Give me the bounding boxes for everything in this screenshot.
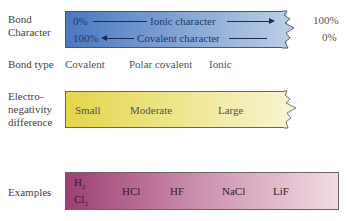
ionic-arrow-line-right	[227, 21, 271, 22]
covalent-start-percent: 100%	[73, 32, 99, 44]
ionic-character-text: Ionic character	[150, 15, 216, 27]
example-lif: LiF	[273, 185, 289, 197]
electronegativity-label-line3: difference	[8, 116, 52, 129]
ionic-start-percent: 0%	[73, 15, 88, 27]
example-cl2-symbol: Cl	[74, 193, 84, 205]
ionic-end-percent: 100%	[313, 14, 339, 26]
covalent-arrow-line-right	[229, 38, 267, 39]
example-h2: H2	[74, 176, 85, 193]
ionic-arrowhead-icon	[269, 18, 275, 24]
bond-type-ionic: Ionic	[209, 58, 232, 70]
electronegativity-moderate: Moderate	[130, 104, 172, 116]
electronegativity-small: Small	[75, 104, 101, 116]
examples-label: Examples	[8, 186, 51, 198]
covalent-end-percent: 0%	[322, 31, 337, 43]
example-h2-symbol: H	[74, 176, 82, 188]
bond-character-label-line1: Bond	[8, 13, 51, 26]
bond-character-label-line2: Character	[8, 26, 51, 39]
example-cl2: Cl2	[74, 193, 88, 210]
electronegativity-label: Electro- negativity difference	[8, 90, 52, 129]
example-cl2-subscript: 2	[84, 200, 88, 208]
electronegativity-bar: Small Moderate Large	[65, 91, 287, 128]
electronegativity-label-line1: Electro-	[8, 90, 52, 103]
examples-bar: H2 Cl2 HCl HF NaCl LiF	[65, 172, 339, 210]
example-h2-subscript: 2	[82, 183, 86, 191]
bond-type-label: Bond type	[8, 58, 54, 70]
electronegativity-jagged-edge-icon	[284, 91, 304, 128]
example-hcl: HCl	[122, 185, 140, 197]
bond-character-jagged-edge-icon	[282, 11, 302, 48]
ionic-arrow-line-left	[93, 21, 147, 22]
bond-type-polar-covalent: Polar covalent	[129, 58, 192, 70]
covalent-arrow-line-left	[106, 38, 134, 39]
example-nacl: NaCl	[222, 185, 245, 197]
covalent-character-text: Covalent character	[137, 32, 220, 44]
electronegativity-large: Large	[218, 104, 243, 116]
bond-character-bar: 0% Ionic character 100% Covalent charact…	[65, 11, 287, 48]
bond-character-label: Bond Character	[8, 13, 51, 39]
electronegativity-label-line2: negativity	[8, 103, 52, 116]
example-hf: HF	[170, 185, 184, 197]
bond-type-covalent: Covalent	[65, 58, 105, 70]
